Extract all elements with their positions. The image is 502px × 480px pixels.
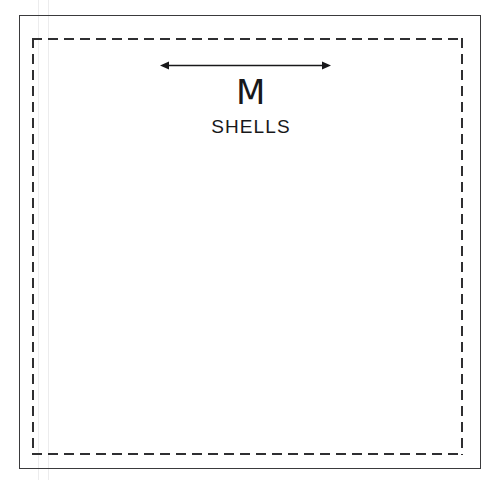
width-dimension-arrow-icon — [160, 59, 331, 72]
safe-area-line-bottom — [32, 453, 463, 455]
safe-area-line-right — [461, 38, 463, 455]
arrow-head-left — [160, 62, 169, 70]
safe-area-dashed-border — [32, 38, 463, 455]
safe-area-line-top — [32, 38, 463, 40]
arrow-head-right — [322, 62, 331, 70]
safe-area-line-left — [32, 38, 34, 455]
artboard-canvas: M SHELLS — [0, 0, 502, 480]
